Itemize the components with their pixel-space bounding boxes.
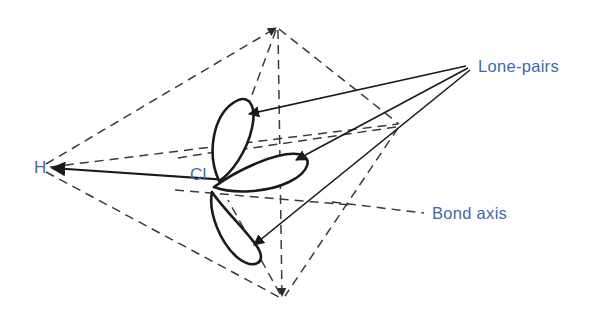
atom-label-chlorine: Cl [190, 165, 206, 184]
bond-axis-leader [332, 202, 424, 213]
hcl-lone-pairs-diagram: H Cl Lone-pairs Bond axis [0, 0, 599, 320]
leader-to-middle-lobe [296, 68, 468, 160]
edge-right-to-center [238, 127, 396, 150]
edge-center-lower-horizontal [175, 190, 350, 205]
lone-pair-lobes [211, 99, 307, 264]
edge-top-to-right [279, 29, 399, 124]
lone-pair-lower-lobe [211, 192, 261, 264]
callout-label-bond-axis: Bond axis [432, 204, 507, 222]
leader-to-upper-lobe [249, 66, 466, 114]
edge-right-to-bottom [285, 128, 398, 296]
atom-label-hydrogen: H [34, 158, 46, 177]
callout-label-lone-pairs: Lone-pairs [478, 57, 559, 75]
edge-center-left-stub [178, 152, 215, 158]
bond-axis-leader-line [332, 202, 424, 213]
diagram-canvas: H Cl Lone-pairs Bond axis [0, 0, 599, 320]
